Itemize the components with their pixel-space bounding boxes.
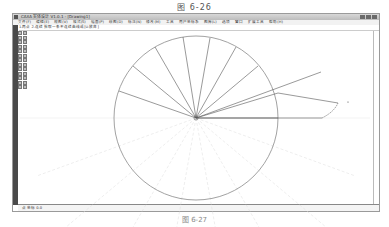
faint-spoke-line xyxy=(196,118,281,227)
spoke-line[interactable] xyxy=(133,66,196,118)
spoke-line[interactable] xyxy=(119,91,196,118)
faint-spoke-line xyxy=(196,118,356,176)
faint-spoke-line xyxy=(36,118,196,176)
cursor-point xyxy=(347,101,348,102)
drawing-canvas[interactable] xyxy=(0,0,389,227)
upper-spokes[interactable] xyxy=(119,37,278,118)
spoke-line[interactable] xyxy=(183,37,196,118)
cam-extended-ray[interactable] xyxy=(196,72,321,118)
cam-profile-curve[interactable] xyxy=(322,103,338,118)
faint-spoke-line xyxy=(111,118,196,227)
spoke-line[interactable] xyxy=(155,47,196,118)
faint-lower-spokes xyxy=(36,118,355,227)
figure-caption-bottom: 图 6-27 xyxy=(0,214,389,224)
faint-spoke-line xyxy=(196,118,226,227)
faint-spoke-line xyxy=(196,118,326,227)
faint-spoke-line xyxy=(166,118,196,227)
cam-profile[interactable] xyxy=(196,72,338,118)
cam-tangent-line[interactable] xyxy=(278,93,338,103)
spoke-line[interactable] xyxy=(196,66,258,118)
faint-spoke-line xyxy=(66,118,196,227)
